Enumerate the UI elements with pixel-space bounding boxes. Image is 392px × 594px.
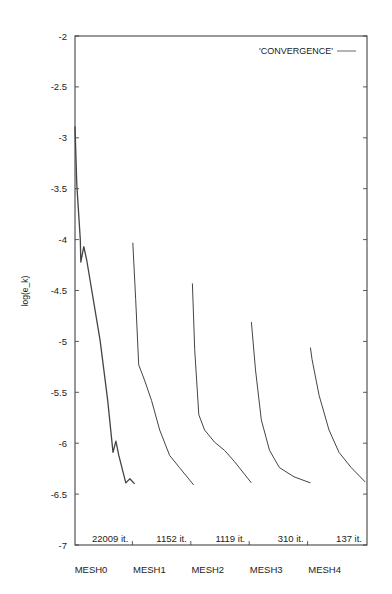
convergence-series	[75, 127, 365, 485]
x-axis-mesh-labels: MESH0MESH1MESH2MESH3MESH4	[75, 564, 341, 575]
y-tick-label: -5.5	[51, 387, 67, 398]
y-tick-label: -5	[59, 336, 67, 347]
y-tick-label: -2.5	[51, 81, 67, 92]
y-axis-ticks: -2-2.5-3-3.5-4-4.5-5-5.5-6-6.5-7	[51, 31, 367, 551]
y-tick-label: -6.5	[51, 489, 67, 500]
mesh-label: MESH0	[75, 564, 108, 575]
mesh-label: MESH3	[250, 564, 283, 575]
iteration-count-label: 1152 it.	[156, 533, 186, 544]
y-tick-label: -3	[59, 132, 67, 143]
mesh-label: MESH4	[308, 564, 341, 575]
y-tick-label: -7	[59, 540, 67, 551]
convergence-chart: -2-2.5-3-3.5-4-4.5-5-5.5-6-6.5-7 MESH0ME…	[0, 0, 392, 594]
iteration-count-label: 310 it.	[278, 533, 304, 544]
plot-border	[75, 36, 367, 545]
series-mesh2	[192, 283, 251, 483]
y-tick-label: -6	[59, 438, 67, 449]
y-tick-label: -2	[59, 31, 67, 42]
series-mesh3	[251, 322, 310, 483]
y-tick-label: -3.5	[51, 183, 67, 194]
y-tick-label: -4.5	[51, 285, 67, 296]
mesh-label: MESH2	[191, 564, 224, 575]
plot-frame	[75, 36, 367, 545]
y-tick-label: -4	[59, 234, 67, 245]
mesh-label: MESH1	[133, 564, 166, 575]
iteration-count-label: 137 it.	[336, 533, 362, 544]
iteration-count-label: 22009 it.	[92, 533, 128, 544]
series-mesh0	[75, 127, 135, 484]
legend-label: 'CONVERGENCE'	[259, 46, 333, 56]
legend: 'CONVERGENCE'	[259, 46, 356, 56]
series-mesh4	[310, 348, 365, 482]
iteration-count-label: 1119 it.	[215, 533, 245, 544]
series-mesh1	[133, 243, 194, 485]
y-axis-label: log(e_k)	[20, 275, 30, 306]
